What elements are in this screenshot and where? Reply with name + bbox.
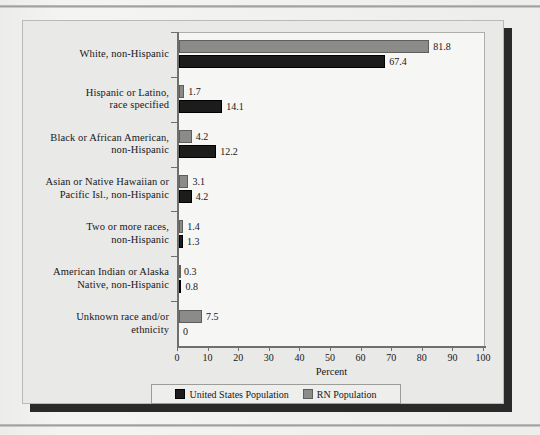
x-axis-title: Percent	[177, 366, 486, 377]
x-tick-mark	[299, 346, 300, 351]
bar-us	[179, 55, 385, 68]
bar-row: Asian or Native Hawaiian orPacific Isl.,…	[23, 167, 505, 212]
category-label-line: Two or more races,	[23, 221, 169, 234]
bar-value-label: 4.2	[196, 190, 209, 203]
x-tick-mark	[330, 346, 331, 351]
bar-value-label: 1.3	[187, 235, 200, 248]
bar-row: American Indian or AlaskaNative, non-His…	[23, 256, 505, 301]
bar-value-label: 1.7	[188, 85, 201, 98]
category-tick	[171, 256, 178, 257]
x-tick-label: 90	[447, 352, 457, 363]
category-label-line: non-Hispanic	[23, 144, 169, 157]
category-label-line: Black or African American,	[23, 132, 169, 145]
category-label: White, non-Hispanic	[23, 48, 169, 61]
category-tick	[171, 301, 178, 302]
bar-rn	[179, 310, 202, 323]
x-tick-label: 50	[325, 352, 335, 363]
bar-us	[179, 145, 216, 158]
x-tick-label: 100	[476, 352, 491, 363]
category-label: American Indian or AlaskaNative, non-His…	[23, 266, 169, 291]
x-tick-label: 20	[233, 352, 243, 363]
x-tick-label: 0	[175, 352, 180, 363]
bar-value-label: 81.8	[433, 40, 451, 53]
category-tick	[171, 77, 178, 78]
bar-rn	[179, 85, 184, 98]
page-rule-top	[0, 5, 540, 8]
category-label: Two or more races,non-Hispanic	[23, 221, 169, 246]
category-label: Hispanic or Latino,race specified	[23, 87, 169, 112]
category-tick	[171, 122, 178, 123]
x-tick-mark	[269, 346, 270, 351]
x-tick-label: 80	[417, 352, 427, 363]
bar-value-label: 1.4	[187, 220, 200, 233]
bar-rn	[179, 220, 183, 233]
x-tick-label: 60	[356, 352, 366, 363]
category-label-line: Native, non-Hispanic	[23, 279, 169, 292]
x-tick-mark	[452, 346, 453, 351]
bar-us	[179, 280, 181, 293]
x-tick-mark	[422, 346, 423, 351]
x-tick-mark	[361, 346, 362, 351]
bar-rn	[179, 265, 181, 278]
x-tick-mark	[238, 346, 239, 351]
category-tick	[171, 167, 178, 168]
bar-value-label: 14.1	[226, 100, 244, 113]
category-label: Unknown race and/orethnicity	[23, 311, 169, 336]
category-label-line: American Indian or Alaska	[23, 266, 169, 279]
bar-row: Two or more races,non-Hispanic1.41.3	[23, 211, 505, 256]
category-label-line: Unknown race and/or	[23, 311, 169, 324]
legend-swatch-icon-rn	[303, 389, 313, 399]
x-tick-label: 70	[386, 352, 396, 363]
legend-label-us: United States Population	[189, 389, 288, 400]
bar-row: Hispanic or Latino,race specified1.714.1	[23, 77, 505, 122]
category-tick	[171, 211, 178, 212]
bar-value-label: 0	[183, 325, 188, 338]
x-tick-label: 30	[264, 352, 274, 363]
x-tick-mark	[177, 346, 178, 351]
bar-value-label: 67.4	[389, 55, 407, 68]
figure-container: White, non-Hispanic81.867.4Hispanic or L…	[22, 20, 504, 404]
bar-value-label: 0.8	[185, 280, 198, 293]
category-label-line: ethnicity	[23, 324, 169, 337]
page-rule-bottom	[0, 424, 540, 427]
x-tick-label: 10	[203, 352, 213, 363]
x-tick-mark	[391, 346, 392, 351]
bar-value-label: 12.2	[220, 145, 238, 158]
legend-item-rn-population: RN Population	[303, 389, 377, 400]
category-tick	[171, 32, 178, 33]
x-tick-mark	[483, 346, 484, 351]
chart-legend: United States Population RN Population	[151, 384, 401, 404]
legend-swatch-icon-us	[175, 389, 185, 399]
category-label-line: Hispanic or Latino,	[23, 87, 169, 100]
x-tick-label: 40	[294, 352, 304, 363]
category-label: Asian or Native Hawaiian orPacific Isl.,…	[23, 176, 169, 201]
bar-us	[179, 190, 192, 203]
bar-row: Black or African American,non-Hispanic4.…	[23, 122, 505, 167]
category-label-line: White, non-Hispanic	[23, 48, 169, 61]
category-label-line: race specified	[23, 99, 169, 112]
legend-item-us-population: United States Population	[175, 389, 288, 400]
category-label-line: Asian or Native Hawaiian or	[23, 176, 169, 189]
category-label-line: non-Hispanic	[23, 234, 169, 247]
bar-rn	[179, 130, 192, 143]
bar-row: White, non-Hispanic81.867.4	[23, 32, 505, 77]
bar-rn	[179, 175, 188, 188]
x-tick-mark	[208, 346, 209, 351]
bar-value-label: 7.5	[206, 310, 219, 323]
category-label-line: Pacific Isl., non-Hispanic	[23, 189, 169, 202]
bar-value-label: 0.3	[184, 265, 197, 278]
bar-us	[179, 235, 183, 248]
bar-rn	[179, 40, 429, 53]
bar-value-label: 4.2	[196, 130, 209, 143]
category-label: Black or African American,non-Hispanic	[23, 132, 169, 157]
legend-label-rn: RN Population	[317, 389, 377, 400]
bar-us	[179, 100, 222, 113]
bar-value-label: 3.1	[192, 175, 205, 188]
bar-rows: White, non-Hispanic81.867.4Hispanic or L…	[23, 32, 505, 346]
bar-row: Unknown race and/orethnicity7.50	[23, 301, 505, 346]
